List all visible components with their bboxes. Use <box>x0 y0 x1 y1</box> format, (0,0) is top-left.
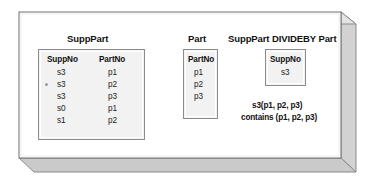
column-header-supppart-suppno: SuppNo <box>47 55 78 64</box>
table-row: s1 <box>57 116 65 125</box>
column-header-result-suppno: SuppNo <box>270 55 301 64</box>
result-caption-line-2: contains (p1, p2, p3) <box>241 113 317 122</box>
table-row: p1 <box>108 104 117 113</box>
panel-title-supppart: SuppPart <box>67 33 108 44</box>
table-supppart-inner-bevel <box>40 51 143 138</box>
table-row: p2 <box>194 80 203 89</box>
panel-title-part: Part <box>188 33 206 44</box>
figure-content-plane: SuppPart SuppNo PartNo s3 p1 s3 p2 s3 p3… <box>0 0 376 187</box>
panel-title-result: SuppPart DIVIDEBY Part <box>228 33 336 44</box>
table-row: s3 <box>57 80 65 89</box>
table-row: p2 <box>108 116 117 125</box>
result-caption-line-1: s3(p1, p2, p3) <box>252 101 302 110</box>
table-row: s0 <box>57 104 65 113</box>
table-row: s3 <box>281 68 289 77</box>
divide-by-relational-operator-figure: SuppPart SuppNo PartNo s3 p1 s3 p2 s3 p3… <box>0 0 376 187</box>
table-row: s3 <box>57 68 65 77</box>
table-row: p1 <box>108 68 117 77</box>
table-row: p3 <box>108 92 117 101</box>
table-row: p3 <box>194 92 203 101</box>
table-row: s3 <box>57 92 65 101</box>
row-marker-dot <box>45 83 48 86</box>
table-row: p2 <box>108 80 117 89</box>
column-header-part-partno: PartNo <box>188 55 214 64</box>
column-header-supppart-partno: PartNo <box>99 55 125 64</box>
table-row: p1 <box>194 68 203 77</box>
